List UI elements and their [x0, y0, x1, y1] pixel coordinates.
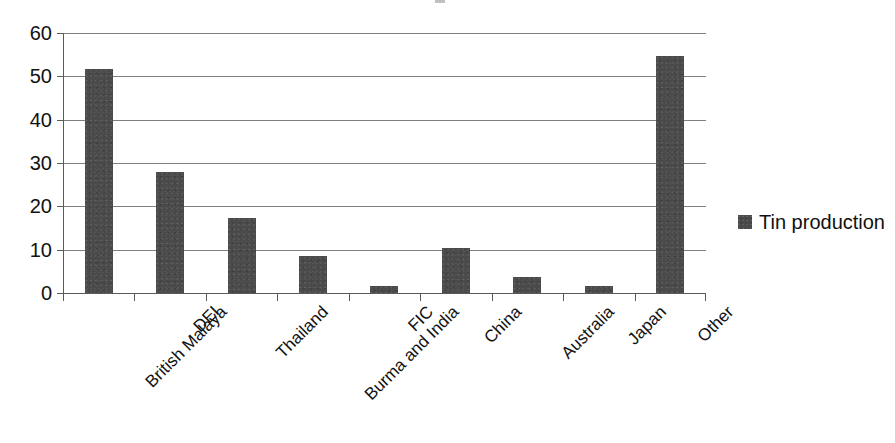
bar[interactable]	[370, 286, 398, 293]
legend: Tin production	[738, 212, 885, 232]
x-axis-category-label: China	[481, 303, 524, 346]
bar[interactable]	[299, 256, 327, 293]
x-axis-tick-mark	[635, 293, 636, 301]
scan-artifact	[435, 0, 445, 3]
x-axis-category-label: Australia	[559, 303, 618, 362]
x-axis-tick-mark	[63, 293, 64, 301]
y-axis-tick-mark	[57, 120, 64, 121]
y-axis-tick-label: 50	[30, 66, 52, 86]
bar[interactable]	[513, 277, 541, 293]
bar[interactable]	[585, 286, 613, 293]
x-axis-tick-mark	[206, 293, 207, 301]
x-axis-tick-mark	[349, 293, 350, 301]
y-axis-tick-mark	[57, 163, 64, 164]
bar-slot	[635, 33, 706, 293]
bar-slot	[563, 33, 634, 293]
y-axis-tick-label: 30	[30, 153, 52, 173]
legend-swatch-icon	[738, 215, 752, 229]
bar[interactable]	[228, 218, 256, 293]
x-axis-category-label: Thailand	[273, 303, 331, 361]
y-axis-tick-label: 20	[30, 196, 52, 216]
x-axis-tick-mark	[420, 293, 421, 301]
bar[interactable]	[156, 172, 184, 293]
x-axis-tick-mark	[277, 293, 278, 301]
x-axis-tick-mark	[134, 293, 135, 301]
bar[interactable]	[85, 69, 113, 293]
y-axis-tick-label: 0	[41, 283, 52, 303]
x-axis-tick-mark	[563, 293, 564, 301]
x-axis-category-label: Japan	[624, 303, 669, 348]
x-axis	[63, 293, 706, 303]
bar-slot	[349, 33, 420, 293]
bar-slot	[206, 33, 277, 293]
y-axis-tick-label: 10	[30, 240, 52, 260]
bar-chart: 0102030405060 British MalayaDEIThailandB…	[0, 0, 895, 443]
x-axis-tick-mark	[705, 293, 706, 301]
y-axis-tick-mark	[57, 206, 64, 207]
bar-slot	[420, 33, 491, 293]
bars-layer	[63, 33, 706, 293]
y-axis-tick-mark	[57, 250, 64, 251]
bar[interactable]	[442, 248, 470, 293]
bar[interactable]	[656, 56, 684, 293]
bar-slot	[134, 33, 205, 293]
legend-label: Tin production	[759, 212, 885, 232]
y-axis-tick-mark	[57, 293, 64, 294]
y-axis-tick-mark	[57, 76, 64, 77]
bar-slot	[492, 33, 563, 293]
y-axis-tick-mark	[57, 33, 64, 34]
x-axis-tick-mark	[492, 293, 493, 301]
y-axis-labels: 0102030405060	[0, 33, 52, 293]
x-axis-category-label: Other	[695, 303, 737, 345]
bar-slot	[63, 33, 134, 293]
x-axis-line	[63, 293, 706, 294]
bar-slot	[277, 33, 348, 293]
x-axis-category-labels: British MalayaDEIThailandBurma and India…	[63, 303, 706, 443]
y-axis-tick-label: 60	[30, 23, 52, 43]
y-axis-tick-label: 40	[30, 110, 52, 130]
